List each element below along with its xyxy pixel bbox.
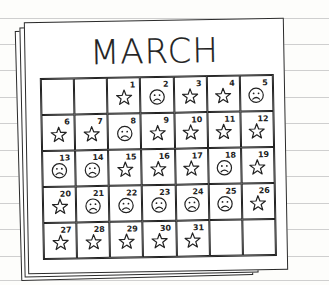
day-cell: 25 bbox=[208, 184, 242, 221]
day-cell: 21 bbox=[76, 186, 110, 223]
day-cell: 11 bbox=[207, 112, 241, 149]
calendar-grid: 1234567891011121314151617181920212223242… bbox=[40, 74, 277, 260]
frown-face-icon bbox=[183, 195, 201, 213]
star-icon bbox=[84, 233, 102, 251]
frown-face-icon bbox=[83, 161, 101, 179]
star-icon bbox=[49, 126, 67, 144]
day-cell: 31 bbox=[176, 220, 210, 257]
day-cell: 2 bbox=[140, 77, 174, 114]
star-icon bbox=[115, 88, 133, 106]
day-cell: 15 bbox=[108, 149, 142, 186]
day-cell: 22 bbox=[109, 185, 143, 222]
day-cell: 9 bbox=[141, 113, 175, 150]
star-icon bbox=[149, 124, 167, 142]
frown-face-icon bbox=[150, 196, 168, 214]
day-cell: 18 bbox=[208, 148, 242, 185]
star-icon bbox=[51, 234, 69, 252]
day-cell: 14 bbox=[75, 150, 109, 187]
empty-cell bbox=[242, 219, 276, 256]
star-icon bbox=[117, 232, 135, 250]
star-icon bbox=[150, 232, 168, 250]
day-cell: 27 bbox=[43, 222, 77, 259]
frown-face-icon bbox=[84, 197, 102, 215]
star-icon bbox=[249, 158, 267, 176]
empty-cell bbox=[209, 220, 243, 257]
star-icon bbox=[182, 159, 200, 177]
star-icon bbox=[181, 87, 199, 105]
star-icon bbox=[214, 87, 232, 105]
day-cell: 8 bbox=[108, 113, 142, 150]
calendar-page: MARCH 1234567891011121314151617181920212… bbox=[24, 18, 288, 274]
day-cell: 3 bbox=[173, 76, 207, 113]
star-icon bbox=[182, 123, 200, 141]
frown-face-icon bbox=[216, 159, 234, 177]
day-cell: 29 bbox=[110, 221, 144, 258]
day-cell: 1 bbox=[107, 77, 141, 114]
day-cell: 20 bbox=[43, 186, 77, 223]
star-icon bbox=[149, 160, 167, 178]
frown-face-icon bbox=[117, 196, 135, 214]
empty-cell bbox=[74, 78, 108, 115]
frown-face-icon bbox=[115, 124, 133, 142]
day-cell: 5 bbox=[240, 75, 274, 112]
day-cell: 23 bbox=[142, 185, 176, 222]
frown-face-icon bbox=[50, 162, 68, 180]
day-cell: 12 bbox=[240, 111, 274, 148]
day-cell: 10 bbox=[174, 112, 208, 149]
frown-face-icon bbox=[148, 88, 166, 106]
star-icon bbox=[184, 231, 202, 249]
day-cell: 17 bbox=[175, 148, 209, 185]
day-cell: 16 bbox=[141, 149, 175, 186]
day-cell: 26 bbox=[242, 183, 276, 220]
star-icon bbox=[116, 160, 134, 178]
day-cell: 4 bbox=[206, 76, 240, 113]
day-cell: 24 bbox=[175, 184, 209, 221]
frown-face-icon bbox=[247, 86, 265, 104]
star-icon bbox=[249, 194, 267, 212]
day-cell: 19 bbox=[241, 147, 275, 184]
star-icon bbox=[248, 122, 266, 140]
month-title: MARCH bbox=[25, 29, 284, 73]
empty-cell bbox=[41, 78, 75, 115]
day-cell: 6 bbox=[41, 114, 75, 151]
star-icon bbox=[50, 198, 68, 216]
star-icon bbox=[82, 125, 100, 143]
day-cell: 28 bbox=[76, 222, 110, 259]
day-cell: 7 bbox=[75, 114, 109, 151]
day-cell: 13 bbox=[42, 150, 76, 187]
frown-face-icon bbox=[216, 195, 234, 213]
day-cell: 30 bbox=[143, 221, 177, 258]
star-icon bbox=[215, 123, 233, 141]
